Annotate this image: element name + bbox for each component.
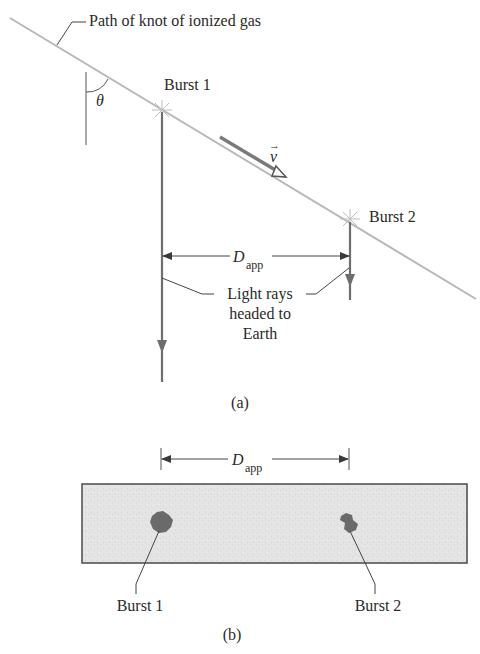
figure-canvas: Path of knot of ionized gas θ Burst 1 v … xyxy=(0,0,480,654)
burst2-label-b: Burst 2 xyxy=(355,597,402,614)
theta-label: θ xyxy=(96,92,104,109)
dapp-subscript-a: app xyxy=(246,258,263,272)
light-rays-line1: Light rays xyxy=(227,285,292,303)
dapp-subscript-b: app xyxy=(245,461,262,475)
velocity-arrow-mark: → xyxy=(269,139,280,151)
light-rays-line3: Earth xyxy=(243,325,278,342)
dapp-label-a: D xyxy=(232,248,245,265)
light-rays-leader-right xyxy=(306,268,349,294)
panel-b: D app Burst 1 Burst 2 (b) xyxy=(82,448,467,644)
caption-b: (b) xyxy=(223,626,242,644)
path-label-leader xyxy=(57,22,86,45)
path-label: Path of knot of ionized gas xyxy=(89,12,261,30)
ray2-arrowhead xyxy=(345,274,355,287)
telescope-image-strip xyxy=(82,484,467,563)
light-rays-line2: headed to xyxy=(229,305,291,322)
ray1-arrowhead xyxy=(157,340,167,353)
theta-arc xyxy=(86,79,108,92)
caption-a: (a) xyxy=(231,394,249,412)
panel-a: Path of knot of ionized gas θ Burst 1 v … xyxy=(10,12,476,412)
burst1-label-b: Burst 1 xyxy=(117,597,164,614)
burst2-label-a: Burst 2 xyxy=(369,208,416,225)
dapp-label-b: D xyxy=(231,451,244,468)
light-rays-leader-left xyxy=(162,278,214,294)
burst1-label-a: Burst 1 xyxy=(164,76,211,93)
